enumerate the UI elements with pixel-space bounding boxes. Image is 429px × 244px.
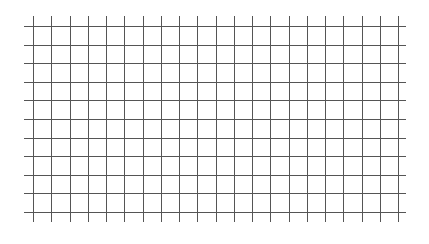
grid-horizontal-line [24, 193, 406, 194]
grid-horizontal-line [24, 26, 406, 27]
grid-horizontal-line [24, 138, 406, 139]
grid-horizontal-line [24, 175, 406, 176]
grid-horizontal-line [24, 45, 406, 46]
grid-canvas [0, 0, 429, 244]
grid-horizontal-line [24, 100, 406, 101]
grid-horizontal-line [24, 82, 406, 83]
grid-horizontal-line [24, 212, 406, 213]
grid-horizontal-line [24, 63, 406, 64]
grid-horizontal-line [24, 119, 406, 120]
grid-horizontal-line [24, 156, 406, 157]
